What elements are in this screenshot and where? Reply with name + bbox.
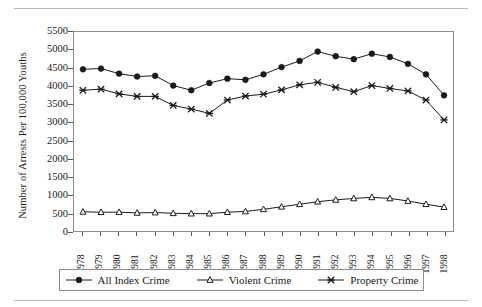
marker-cross-x [440,117,447,123]
legend-marker-open-triangle [196,274,224,286]
marker-cross-x [242,93,249,99]
y-tick-mark [68,68,73,69]
x-tick-mark [336,232,337,236]
marker-cross-x [422,97,429,103]
x-tick-mark [264,232,265,236]
marker-cross-x [278,87,285,93]
marker-filled-circle [80,66,86,72]
legend-item-property-crime[interactable]: Property Crime [317,274,418,286]
marker-cross-x [386,85,393,91]
y-tick-mark [68,159,73,160]
marker-cross-x [350,89,357,95]
y-tick-label: 0 [24,227,68,238]
marker-filled-circle [206,80,212,86]
marker-filled-circle [98,66,104,72]
x-tick-mark [118,232,119,236]
marker-filled-circle [423,71,429,77]
marker-cross-x [133,93,140,99]
y-tick-label: 4500 [24,62,68,73]
legend-label: Property Crime [350,275,418,286]
legend-label: All Index Crime [98,275,170,286]
marker-filled-circle [261,71,267,77]
x-tick-mark [445,232,446,236]
y-tick-label: 5500 [24,26,68,37]
y-tick-label: 4000 [24,81,68,92]
marker-cross-x [224,97,231,103]
marker-cross-x [368,82,375,88]
x-axis-tick-labels: 1978197919801981198219831984198519861987… [73,233,454,273]
x-tick-mark [100,232,101,236]
marker-open-triangle [152,209,158,215]
x-tick-mark [318,232,319,236]
y-tick-label: 2000 [24,154,68,165]
marker-cross-x [170,102,177,108]
chart-figure: Number of Arrests Per 100,000 Youths 050… [0,0,482,307]
marker-filled-circle [369,51,375,57]
y-tick-mark [68,86,73,87]
y-tick-mark [68,214,73,215]
y-tick-label: 500 [24,208,68,219]
marker-cross-x [260,91,267,97]
y-tick-label: 5000 [24,44,68,55]
x-tick-mark [245,232,246,236]
marker-filled-circle [279,64,285,70]
marker-cross-x [296,82,303,88]
y-tick-mark [68,122,73,123]
y-tick-label: 1000 [24,190,68,201]
x-tick-mark [300,232,301,236]
marker-cross-x [404,88,411,94]
x-tick-mark [354,232,355,236]
marker-filled-circle [297,58,303,64]
series-property-crime [79,79,447,123]
y-tick-mark [68,177,73,178]
marker-filled-circle [170,83,176,89]
legend-item-violent-crime[interactable]: Violent Crime [196,274,292,286]
x-tick-mark [82,232,83,236]
marker-filled-circle [441,92,447,98]
marker-filled-circle [387,54,393,60]
x-tick-mark [191,232,192,236]
marker-filled-circle [134,74,140,80]
marker-cross-x [314,79,321,85]
marker-filled-circle [405,61,411,67]
x-tick-mark [409,232,410,236]
marker-filled-circle [188,87,194,93]
plot-svg [74,32,453,231]
y-tick-label: 1500 [24,172,68,183]
legend-marker-filled-circle [65,274,93,286]
marker-cross-x [188,106,195,112]
legend-label: Violent Crime [229,275,292,286]
y-tick-mark [68,31,73,32]
y-tick-mark [68,49,73,50]
legend-item-all-index-crime[interactable]: All Index Crime [65,274,170,286]
marker-cross-x [97,86,104,92]
y-tick-label: 2500 [24,135,68,146]
marker-filled-circle [243,77,249,83]
marker-filled-circle [351,56,357,62]
marker-cross-x [328,277,335,283]
y-tick-mark [68,104,73,105]
x-tick-label: 1998 [440,254,450,273]
x-tick-mark [227,232,228,236]
marker-open-triangle [80,209,86,215]
y-tick-label: 3500 [24,99,68,110]
marker-filled-circle [76,277,82,283]
marker-cross-x [115,91,122,97]
marker-cross-x [206,110,213,116]
y-tick-mark [68,232,73,233]
marker-filled-circle [315,49,321,55]
marker-filled-circle [333,53,339,59]
marker-cross-x [79,87,86,93]
legend-marker-cross-x [317,274,345,286]
chart-legend: All Index CrimeViolent CrimeProperty Cri… [59,269,424,291]
x-tick-mark [391,232,392,236]
marker-filled-circle [225,76,231,82]
x-tick-mark [209,232,210,236]
marker-filled-circle [152,73,158,79]
marker-open-triangle [369,194,375,200]
y-tick-mark [68,195,73,196]
x-tick-mark [173,232,174,236]
y-tick-mark [68,141,73,142]
x-tick-mark [427,232,428,236]
plot-area [73,31,454,232]
